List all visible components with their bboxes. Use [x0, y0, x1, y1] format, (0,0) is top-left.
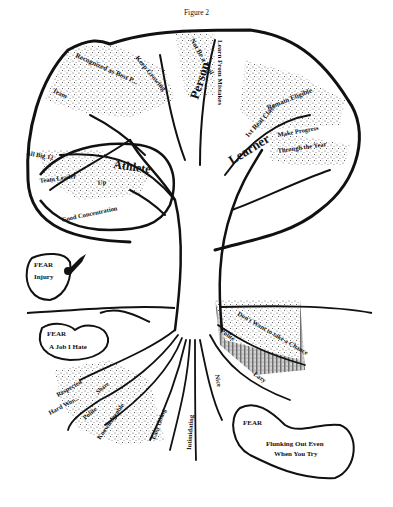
fear-injury-text: Injury [34, 273, 54, 281]
fear-flunking: FEAR Flunking Out Even When You Try [233, 405, 354, 478]
fear-injury: FEAR Injury [27, 254, 86, 300]
fear-job: FEAR A Job I Hate [40, 324, 108, 360]
label-good-concentration: Good Concentration [61, 204, 118, 223]
label-learn-from-mistakes: Learn From Mistakes [216, 40, 224, 105]
ground-line [27, 306, 372, 322]
label-nice: Nice [214, 374, 223, 387]
root-texture [55, 300, 305, 445]
label-up: Up [97, 178, 106, 186]
label-intimidating: Intimidating [185, 414, 194, 450]
fear-injury-title: FEAR [34, 261, 54, 269]
fear-flunking-text: Flunking Out Even [266, 440, 324, 448]
fear-flunking-text2: When You Try [274, 450, 318, 458]
fear-job-title: FEAR [47, 330, 67, 338]
tree-diagram: Recognized as Best P... Keep Growing Not… [0, 0, 393, 507]
fear-flunking-title: FEAR [243, 419, 263, 427]
fear-job-text: A Job I Hate [49, 343, 87, 351]
